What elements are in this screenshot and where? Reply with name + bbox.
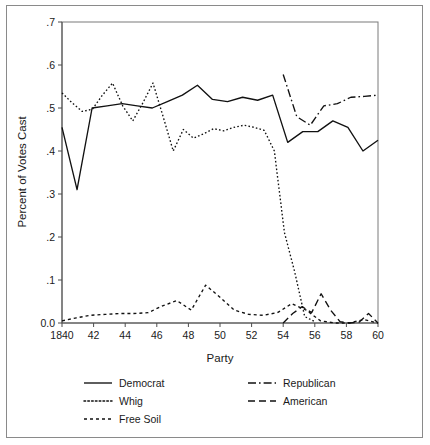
y-tick-label: 0.0 xyxy=(40,317,55,329)
x-tick-label: 1840 xyxy=(50,329,74,341)
plot-area-box xyxy=(62,22,378,323)
y-axis-ticks: 0.0.1.2.3.4.5.6.7 xyxy=(40,16,62,329)
figure-container: 0.0.1.2.3.4.5.6.7 1840424446485052545658… xyxy=(0,0,430,445)
y-axis-title: Percent of Votes Cast xyxy=(16,116,28,228)
chart-legend: DemocratWhigFree SoilRepublicanAmerican xyxy=(84,377,336,425)
x-tick-label: 50 xyxy=(214,329,226,341)
y-tick-label: .2 xyxy=(46,231,55,243)
y-tick-label: .6 xyxy=(46,59,55,71)
legend-label: Free Soil xyxy=(119,413,161,425)
x-tick-label: 52 xyxy=(246,329,258,341)
legend-label: Republican xyxy=(283,377,336,389)
x-tick-label: 54 xyxy=(277,329,289,341)
chart-canvas: 0.0.1.2.3.4.5.6.7 1840424446485052545658… xyxy=(0,0,430,445)
x-tick-label: 44 xyxy=(119,329,131,341)
x-tick-label: 58 xyxy=(341,329,353,341)
x-tick-label: 56 xyxy=(309,329,321,341)
x-tick-label: 46 xyxy=(151,329,163,341)
series-line-democrat xyxy=(62,85,378,189)
x-tick-label: 48 xyxy=(183,329,195,341)
legend-label: American xyxy=(283,395,328,407)
legend-item-free-soil[interactable]: Free Soil xyxy=(84,413,161,425)
y-tick-label: .7 xyxy=(46,16,55,28)
x-tick-label: 60 xyxy=(372,329,384,341)
series-line-republican xyxy=(283,74,378,125)
legend-item-american[interactable]: American xyxy=(248,395,328,407)
x-axis-title: Party xyxy=(207,352,234,364)
y-tick-label: .3 xyxy=(46,188,55,200)
data-series-group xyxy=(62,74,378,323)
legend-label: Whig xyxy=(119,395,143,407)
legend-label: Democrat xyxy=(119,377,165,389)
legend-item-whig[interactable]: Whig xyxy=(84,395,143,407)
y-tick-label: .4 xyxy=(46,145,55,157)
series-line-free-soil xyxy=(62,285,378,323)
legend-item-republican[interactable]: Republican xyxy=(248,377,336,389)
y-tick-label: .5 xyxy=(46,102,55,114)
y-tick-label: .1 xyxy=(46,274,55,286)
series-line-whig xyxy=(62,83,315,322)
x-tick-label: 42 xyxy=(88,329,100,341)
legend-item-democrat[interactable]: Democrat xyxy=(84,377,165,389)
x-axis-ticks: 184042444648505254565860 xyxy=(50,323,384,341)
series-line-american xyxy=(283,294,378,323)
